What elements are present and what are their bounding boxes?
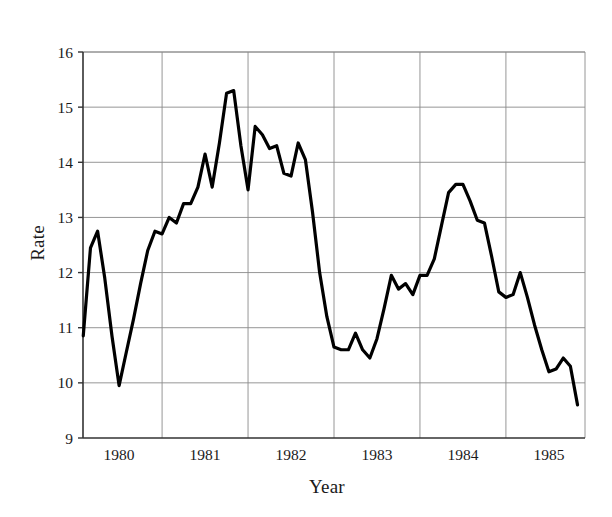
x-tick-label: 1981: [190, 446, 221, 463]
x-tick-label: 1983: [361, 446, 392, 463]
x-tick-label: 1984: [447, 446, 478, 463]
y-tick-label: 11: [58, 319, 73, 336]
data-series-rate: [83, 91, 577, 405]
chart-figure: 910111213141516 198019811982198319841985…: [0, 0, 612, 517]
x-axis-ticks: 198019811982198319841985: [104, 446, 565, 463]
y-tick-label: 14: [58, 154, 74, 171]
y-tick-label: 10: [58, 374, 74, 391]
y-tick-label: 13: [58, 209, 74, 226]
y-tick-label: 16: [58, 44, 74, 61]
y-tick-label: 12: [58, 264, 74, 281]
line-chart-plot: 910111213141516 198019811982198319841985: [0, 0, 612, 517]
x-axis-title: Year: [272, 476, 382, 498]
x-tick-label: 1980: [104, 446, 135, 463]
y-axis-ticks: 910111213141516: [58, 44, 84, 447]
grid-lines: [83, 52, 585, 438]
y-tick-label: 15: [58, 99, 74, 116]
y-tick-label: 9: [65, 430, 73, 447]
x-tick-label: 1985: [533, 446, 564, 463]
y-axis-title: Rate: [27, 215, 49, 271]
x-tick-label: 1982: [276, 446, 307, 463]
